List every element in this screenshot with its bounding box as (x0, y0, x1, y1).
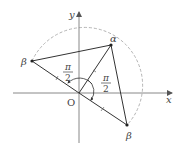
segment-alpha-beta-right (111, 45, 127, 125)
segment-alpha-beta-left (32, 45, 111, 61)
segment-o-beta-left (32, 61, 79, 93)
complex-rotation-diagram: x y O α β β π 2 π 2 (0, 0, 185, 150)
alpha-label: α (110, 33, 117, 44)
y-axis-label: y (68, 9, 75, 20)
point-beta-right (125, 123, 128, 126)
angle-right-denominator: 2 (103, 84, 109, 94)
x-axis-label: x (166, 94, 172, 105)
angle-arc-right (88, 80, 94, 100)
angle-left-denominator: 2 (65, 73, 71, 83)
point-beta-left (30, 59, 33, 62)
angle-right-numerator: π (102, 73, 110, 83)
origin-label: O (67, 97, 75, 108)
angle-left-numerator: π (64, 62, 72, 72)
beta-right-label: β (125, 130, 132, 141)
segment-o-beta-right (79, 93, 127, 125)
dashed-arc (32, 27, 143, 125)
beta-left-label: β (20, 56, 27, 67)
